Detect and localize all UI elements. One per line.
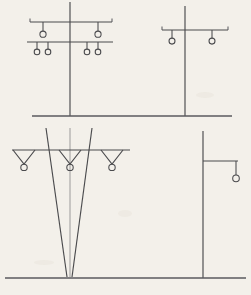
figure-double-crossarm-pole (27, 2, 113, 116)
insulator-disc (40, 31, 46, 37)
v-hanger (101, 150, 123, 171)
insulator (95, 22, 101, 37)
insulator-disc (84, 49, 90, 55)
insulator (209, 30, 215, 44)
figure-single-crossarm-pole (162, 6, 228, 116)
figure-side-bracket-pole (203, 131, 239, 278)
insulator-disc (45, 49, 51, 55)
insulator (34, 42, 40, 55)
insulator (84, 42, 90, 55)
v-hanger-arms (13, 150, 35, 164)
insulator-disc (209, 38, 215, 44)
insulator-disc (109, 164, 115, 170)
insulator (40, 22, 46, 37)
insulator-disc (95, 49, 101, 55)
v-hanger-arms (101, 150, 123, 164)
insulator (169, 30, 175, 44)
crossarm (162, 27, 228, 45)
insulator-disc (95, 31, 101, 37)
drawing-sheet (0, 0, 251, 295)
insulator-disc (21, 164, 27, 170)
insulator (95, 42, 101, 55)
line-drawing-canvas (0, 0, 251, 295)
insulator-disc (34, 49, 40, 55)
upper-crossarm (30, 19, 112, 38)
insulator (45, 42, 51, 55)
v-hanger (13, 150, 35, 171)
insulator-disc (169, 38, 175, 44)
insulator (233, 161, 240, 182)
insulator-disc (233, 175, 240, 182)
figure-lattice-tower-front-elevation (12, 128, 130, 277)
